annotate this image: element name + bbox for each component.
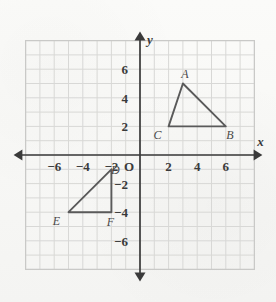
y-axis-arrow-up bbox=[135, 32, 146, 41]
origin-label: O bbox=[124, 159, 134, 174]
x-tick-label: −6 bbox=[47, 159, 61, 174]
x-tick-label: 6 bbox=[223, 159, 230, 174]
triangle-def bbox=[69, 169, 112, 212]
y-tick-label: −6 bbox=[114, 234, 128, 249]
coordinate-plot: −6−4−2246642−2−4−6Oxy ABCDEF bbox=[0, 0, 276, 302]
x-axis-arrow-right bbox=[254, 150, 263, 161]
vertex-label-f: F bbox=[106, 215, 115, 229]
y-axis-arrow-down bbox=[135, 273, 146, 282]
vertex-label-c: C bbox=[154, 128, 163, 142]
x-axis-arrow-left bbox=[14, 150, 23, 161]
vertex-label-e: E bbox=[52, 214, 61, 228]
coordinate-plane-figure: −6−4−2246642−2−4−6Oxy ABCDEF bbox=[0, 0, 276, 302]
y-axis-letter: y bbox=[145, 32, 153, 47]
x-axis-letter: x bbox=[256, 134, 264, 149]
y-tick-label: 6 bbox=[122, 62, 129, 77]
vertex-labels: ABCDEF bbox=[52, 67, 234, 230]
x-tick-label: 2 bbox=[165, 159, 172, 174]
y-tick-label: −2 bbox=[114, 177, 128, 192]
y-tick-label: 4 bbox=[122, 91, 129, 106]
y-tick-label: −4 bbox=[114, 205, 128, 220]
vertex-label-d: D bbox=[110, 163, 120, 177]
plotted-shapes bbox=[69, 84, 226, 213]
vertex-label-a: A bbox=[180, 67, 189, 81]
y-tick-label: 2 bbox=[122, 119, 129, 134]
x-tick-label: 4 bbox=[194, 159, 201, 174]
x-tick-label: −4 bbox=[76, 159, 90, 174]
vertex-label-b: B bbox=[226, 128, 234, 142]
